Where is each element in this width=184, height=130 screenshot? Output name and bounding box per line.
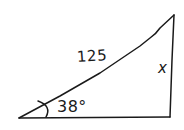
right-triangle-diagram: 125 x 38°: [0, 0, 184, 130]
hypotenuse-label: 125: [77, 48, 108, 65]
opposite-side-line: [170, 15, 174, 117]
base-line: [19, 117, 170, 118]
angle-label: 38°: [57, 99, 87, 115]
opposite-side-label: x: [158, 61, 167, 76]
